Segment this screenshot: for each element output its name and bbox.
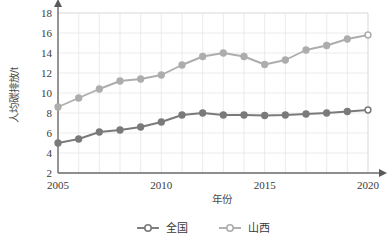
y-tick-label: 16: [41, 27, 53, 39]
data-point: [324, 110, 330, 116]
y-tick-label: 18: [41, 7, 53, 19]
data-point: [241, 54, 247, 60]
data-point: [303, 47, 309, 53]
data-point: [179, 112, 185, 118]
y-axis-title: 人均碳排放/t: [8, 67, 20, 123]
data-point: [55, 104, 61, 110]
legend-marker-icon: [227, 225, 233, 231]
y-tick-label: 8: [47, 107, 53, 119]
x-tick-label: 2015: [254, 179, 277, 191]
data-point: [200, 54, 206, 60]
x-tick-label: 2010: [150, 179, 173, 191]
data-point: [158, 119, 164, 125]
data-point: [55, 140, 61, 146]
legend-marker-icon: [145, 225, 151, 231]
data-point: [262, 62, 268, 68]
legend-label: 山西: [248, 222, 270, 234]
data-point: [262, 113, 268, 119]
data-point: [344, 109, 350, 115]
x-axis-title: 年份: [212, 193, 233, 205]
data-point: [96, 129, 102, 135]
data-point: [241, 112, 247, 118]
y-tick-label: 2: [47, 167, 53, 179]
data-point: [96, 86, 102, 92]
data-point: [138, 76, 144, 82]
data-point: [158, 72, 164, 78]
data-point: [303, 111, 309, 117]
data-point: [282, 112, 288, 118]
data-point: [138, 124, 144, 130]
data-point: [365, 107, 371, 113]
y-tick-label: 12: [41, 67, 52, 79]
data-point: [200, 110, 206, 116]
data-point: [76, 136, 82, 142]
data-point: [282, 57, 288, 63]
data-point: [179, 62, 185, 68]
y-tick-label: 4: [47, 147, 53, 159]
data-point: [344, 36, 350, 42]
data-point: [220, 112, 226, 118]
data-point: [117, 127, 123, 133]
y-tick-label: 10: [41, 87, 53, 99]
y-tick-label: 14: [41, 47, 53, 59]
data-point: [365, 32, 371, 38]
x-tick-label: 2005: [47, 179, 70, 191]
x-tick-label: 2020: [357, 179, 380, 191]
data-point: [220, 50, 226, 56]
data-point: [117, 78, 123, 84]
data-point: [324, 43, 330, 49]
data-point: [76, 95, 82, 101]
legend-label: 全国: [166, 221, 188, 234]
y-tick-label: 6: [47, 127, 53, 139]
line-chart: 24681012141618 2005201020152020 人均碳排放/t …: [0, 0, 389, 244]
chart-container: 24681012141618 2005201020152020 人均碳排放/t …: [0, 0, 389, 244]
